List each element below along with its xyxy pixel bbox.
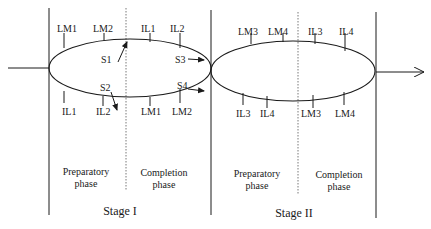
stage2-top-label: LM3 (238, 26, 258, 37)
stage2-completion-label: phase (328, 181, 351, 192)
stage1-completion-label: phase (153, 179, 176, 190)
stage1-top-label: IL2 (170, 23, 184, 34)
stage1-preparatory-label: phase (75, 178, 98, 189)
stage1-completion-label: Completion (140, 167, 187, 178)
stage2-bottom-label: IL4 (260, 108, 274, 119)
stage2-cycle (211, 41, 375, 101)
s3-label: S3 (175, 54, 186, 65)
stage2-preparatory-label: phase (246, 180, 269, 191)
stage1-bottom-label: LM2 (172, 106, 192, 117)
s2-arrow (111, 92, 117, 110)
s3-arrow (188, 59, 204, 60)
stage2-bottom-label: LM4 (335, 108, 355, 119)
stage2-bottom-label: LM3 (301, 108, 321, 119)
stage2-bottom-label: IL3 (236, 108, 250, 119)
stage2-top-label: LM4 (268, 26, 288, 37)
stage1-top-ticks (64, 33, 180, 48)
stage2-preparatory-label: Preparatory (234, 168, 281, 179)
s4-label: S4 (177, 80, 188, 91)
stage1-top-label: LM1 (57, 23, 77, 34)
process-diagram: LM1 LM2 IL1 IL2 IL1 IL2 LM1 LM2 S1 S2 S3… (0, 0, 431, 229)
stage2-bottom-ticks (243, 92, 344, 108)
stage1-preparatory-label: Preparatory (63, 166, 110, 177)
stage1-top-label: LM2 (93, 23, 113, 34)
s1-label: S1 (101, 54, 112, 65)
stage1-label: Stage I (103, 204, 137, 218)
stage1-bottom-label: LM1 (141, 106, 161, 117)
stage2-top-label: IL3 (308, 26, 322, 37)
stage1-bottom-label: IL1 (62, 106, 76, 117)
stage2-top-label: IL4 (339, 26, 353, 37)
stage2-completion-label: Completion (315, 169, 362, 180)
stage2-label: Stage II (275, 206, 313, 220)
s4-arrow (188, 89, 204, 91)
s2-label: S2 (100, 82, 111, 93)
stage1-top-label: IL1 (141, 23, 155, 34)
stage1-bottom-label: IL2 (96, 106, 110, 117)
